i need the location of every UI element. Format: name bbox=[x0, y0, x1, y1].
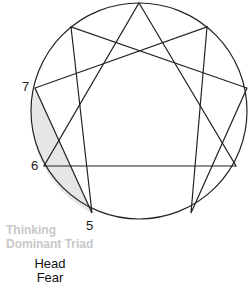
point-7-label: 7 bbox=[22, 80, 29, 93]
point-6-label: 6 bbox=[31, 159, 38, 172]
triad-title-line2: Dominant Triad bbox=[6, 237, 93, 251]
triad-title-line1: Thinking bbox=[6, 223, 56, 237]
center-emotion: Fear bbox=[10, 270, 90, 285]
center-name: Head bbox=[10, 256, 90, 271]
point-5-label: 5 bbox=[86, 219, 93, 232]
